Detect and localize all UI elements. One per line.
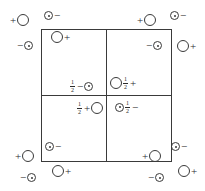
plus-sign: + [189, 41, 197, 52]
dotted-circle-icon [24, 41, 33, 50]
charge-outer-top-left-plus: + [9, 14, 29, 26]
open-circle-icon [144, 14, 156, 26]
charge-outer-right-bottom-plus: + [141, 150, 161, 162]
horizontal-divider [41, 95, 172, 96]
charge-outer-bottom-right-minus: − [147, 172, 164, 183]
dotted-circle-icon [170, 11, 179, 20]
charge-inner-bottom-right-minus: − [171, 141, 188, 152]
one-half-fraction: 12 [69, 79, 76, 93]
minus-sign: − [179, 10, 187, 21]
minus-sign: − [19, 172, 27, 183]
plus-sign: + [83, 103, 91, 114]
charge-outer-top-right-plus: + [136, 14, 156, 26]
charge-outer-top-right-minus: − [170, 10, 187, 21]
plus-sign: + [129, 78, 137, 89]
dotted-circle-icon [115, 103, 124, 112]
charge-outer-bottom-minus: − [19, 172, 36, 183]
one-half-fraction: 12 [124, 100, 131, 114]
charge-outer-bottom-right-plus: + [178, 165, 198, 177]
charge-inner-top-right-minus: − [145, 40, 162, 51]
dotted-circle-icon [45, 142, 54, 151]
minus-sign: − [131, 102, 139, 113]
minus-sign: − [147, 172, 155, 183]
minus-sign: − [16, 40, 24, 51]
charge-center-lower-left-half-plus: 12+ [76, 101, 103, 115]
plus-sign: + [64, 166, 72, 177]
dotted-circle-icon [171, 142, 180, 151]
charge-lattice-figure: +−−++−+−12−12+12+12−−++−−++− [0, 0, 205, 191]
charge-center-lower-right-half-minus: 12− [115, 100, 139, 114]
charge-outer-left-minus: − [16, 40, 33, 51]
minus-sign: − [145, 40, 153, 51]
dotted-circle-icon [84, 82, 93, 91]
open-circle-icon [149, 150, 161, 162]
charge-outer-top-minus: − [44, 10, 61, 21]
open-circle-icon [178, 165, 190, 177]
charge-outer-bottom-left-plus: + [52, 165, 72, 177]
minus-sign: − [53, 10, 61, 21]
minus-sign: − [180, 141, 188, 152]
charge-outer-right-plus: + [177, 40, 197, 52]
dotted-circle-icon [155, 173, 164, 182]
dotted-circle-icon [27, 173, 36, 182]
dotted-circle-icon [153, 41, 162, 50]
plus-sign: + [136, 15, 144, 26]
open-circle-icon [177, 40, 189, 52]
dotted-circle-icon [44, 11, 53, 20]
open-circle-icon [17, 14, 29, 26]
plus-sign: + [14, 151, 22, 162]
minus-sign: − [76, 81, 84, 92]
open-circle-icon [110, 77, 122, 89]
open-circle-icon [91, 102, 103, 114]
charge-inner-bottom-left-minus: − [45, 141, 62, 152]
one-half-fraction: 12 [76, 101, 83, 115]
charge-outer-left-bottom-plus: + [14, 150, 34, 162]
one-half-fraction: 12 [122, 76, 129, 90]
plus-sign: + [63, 32, 71, 43]
minus-sign: − [54, 141, 62, 152]
plus-sign: + [190, 166, 198, 177]
charge-center-upper-right-half-plus: 12+ [110, 76, 137, 90]
charge-center-upper-left-half-minus: 12− [69, 79, 93, 93]
plus-sign: + [141, 151, 149, 162]
open-circle-icon [22, 150, 34, 162]
open-circle-icon [52, 165, 64, 177]
charge-inner-top-left-plus: + [51, 31, 71, 43]
plus-sign: + [9, 15, 17, 26]
open-circle-icon [51, 31, 63, 43]
